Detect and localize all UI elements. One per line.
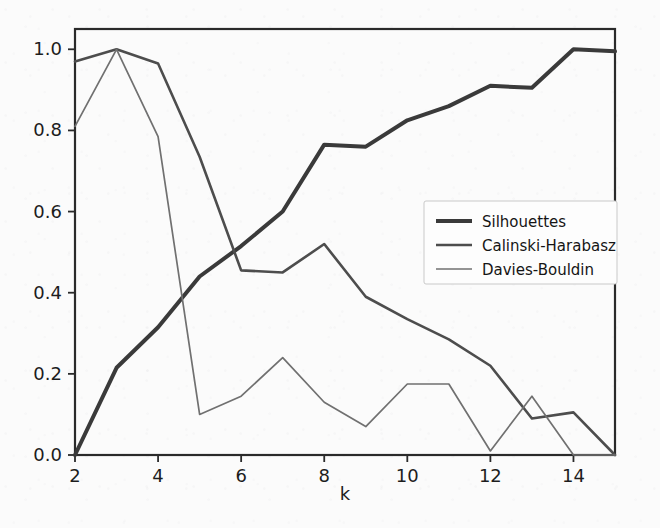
y-tick-label: 1.0 <box>33 38 62 59</box>
y-tick-label: 0.0 <box>33 444 62 465</box>
y-tick-label: 0.6 <box>33 201 62 222</box>
y-tick-label: 0.8 <box>33 119 62 140</box>
line-chart: 0.00.20.40.60.81.0 2468101214 Silhouette… <box>0 0 660 528</box>
x-tick-label: 14 <box>562 465 585 486</box>
y-axis-ticks: 0.00.20.40.60.81.0 <box>33 38 75 465</box>
x-tick-label: 4 <box>152 465 163 486</box>
y-tick-label: 0.4 <box>33 282 62 303</box>
figure-canvas: 0.00.20.40.60.81.0 2468101214 Silhouette… <box>0 0 660 528</box>
chart-legend: SilhouettesCalinski-HarabaszDavies-Bould… <box>424 201 617 284</box>
x-tick-label: 8 <box>319 465 330 486</box>
x-tick-label: 10 <box>396 465 419 486</box>
x-axis-title: k <box>340 483 351 504</box>
legend-label: Calinski-Harabasz <box>482 237 616 255</box>
x-tick-label: 6 <box>235 465 246 486</box>
y-tick-label: 0.2 <box>33 363 62 384</box>
legend-label: Silhouettes <box>482 213 566 231</box>
legend-label: Davies-Bouldin <box>482 261 594 279</box>
x-tick-label: 12 <box>479 465 502 486</box>
x-axis-ticks: 2468101214 <box>69 455 585 486</box>
x-tick-label: 2 <box>69 465 80 486</box>
